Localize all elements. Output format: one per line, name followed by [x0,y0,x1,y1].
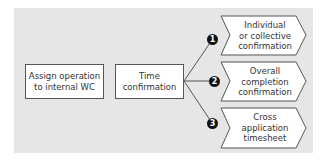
option-individual-collective-confirmation: Individual or collective confirmation [232,18,298,54]
option-2-line-3: confirmation [238,87,292,98]
option-overall-completion-confirmation: Overall completion confirmation [232,64,298,100]
option-1-line-3: confirmation [238,41,292,52]
option-3-line-1: Cross [253,112,276,123]
option-2-line-2: completion [241,77,288,88]
step-time-line-1: Time [123,71,177,82]
step-assign-operation: Assign operation to internal WC [25,64,104,99]
connector-line-1 [184,40,212,81]
diagram-canvas: Assign operation to internal WC Time con… [0,0,325,160]
option-3-line-3: timesheet [244,133,287,144]
option-cross-application-timesheet: Cross application timesheet [232,110,298,146]
step-assign-line-1: Assign operation [29,71,100,82]
number-badge-2: 2 [209,76,220,87]
step-assign-line-2: to internal WC [29,82,100,93]
option-2-line-1: Overall [250,66,280,77]
connector-line-3 [184,81,212,123]
step-time-confirmation: Time confirmation [115,64,184,99]
option-3-line-2: application [242,123,289,134]
number-badge-3: 3 [207,118,218,129]
step-time-line-2: confirmation [123,82,177,93]
option-1-line-2: or collective [239,31,291,42]
option-1-line-1: Individual [244,20,285,31]
number-badge-1: 1 [207,34,218,45]
